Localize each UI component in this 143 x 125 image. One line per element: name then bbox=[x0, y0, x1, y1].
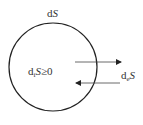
label-relation: ≥0 bbox=[41, 65, 53, 77]
internal-entropy-label: diS≥0 bbox=[28, 66, 53, 81]
total-entropy-label: dS bbox=[47, 8, 58, 19]
diagram-canvas bbox=[0, 0, 143, 125]
exchange-entropy-label: deS bbox=[121, 70, 135, 85]
label-var: S bbox=[130, 69, 136, 81]
system-boundary-circle bbox=[9, 23, 97, 111]
label-var: S bbox=[53, 7, 59, 19]
